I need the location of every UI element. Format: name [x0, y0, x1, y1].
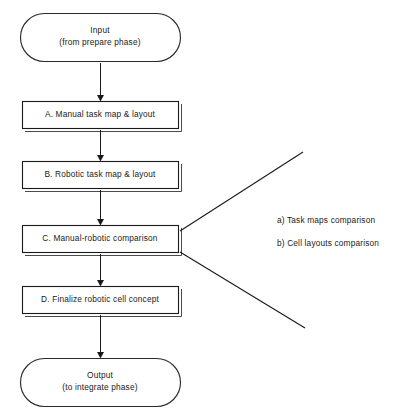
annotation-a-text: a) Task maps comparison	[277, 215, 375, 226]
flowchart-canvas	[0, 0, 416, 420]
flowchart-page: Input (from prepare phase) A. Manual tas…	[0, 0, 416, 420]
node-input-shape	[21, 14, 181, 62]
node-step-b-shape	[23, 162, 179, 189]
node-output-shape	[21, 359, 181, 407]
annotation-b-text: b) Cell layouts comparison	[277, 238, 379, 249]
node-step-a-shape	[23, 102, 179, 129]
node-step-c-shape	[23, 226, 179, 253]
leader-line-lower	[180, 252, 305, 328]
node-step-d-shape	[23, 287, 179, 314]
